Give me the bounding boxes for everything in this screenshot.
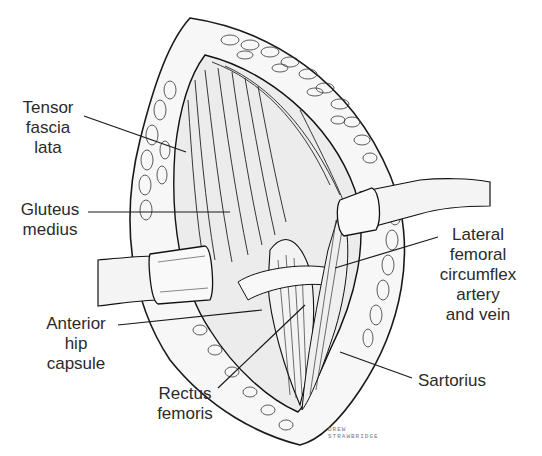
label-line: capsule (36, 354, 116, 374)
label-line: Tensor (8, 98, 88, 118)
label-line: and vein (428, 305, 528, 325)
label-lateral-femoral-circumflex: Lateral femoral circumflex artery and ve… (428, 225, 528, 325)
label-sartorius: Sartorius (412, 371, 492, 391)
label-line: Lateral (428, 225, 528, 245)
label-line: lata (8, 138, 88, 158)
label-line: Anterior (36, 314, 116, 334)
label-line: artery (428, 285, 528, 305)
label-line: Sartorius (412, 371, 492, 391)
label-rectus-femoris: Rectus femoris (150, 384, 220, 424)
label-line: femoris (150, 404, 220, 424)
artist-signature: DREW STRAWBRIDGE (328, 426, 379, 440)
signature-line: STRAWBRIDGE (328, 433, 379, 440)
label-line: hip (36, 334, 116, 354)
retractor-left (98, 246, 212, 306)
label-line: circumflex (428, 265, 528, 285)
label-line: medius (12, 220, 88, 240)
label-gluteus-medius: Gluteus medius (12, 200, 88, 240)
label-tensor-fascia-lata: Tensor fascia lata (8, 98, 88, 158)
label-line: femoral (428, 245, 528, 265)
label-line: fascia (8, 118, 88, 138)
label-anterior-hip-capsule: Anterior hip capsule (36, 314, 116, 374)
label-line: Rectus (150, 384, 220, 404)
signature-line: DREW (328, 426, 379, 433)
label-line: Gluteus (12, 200, 88, 220)
